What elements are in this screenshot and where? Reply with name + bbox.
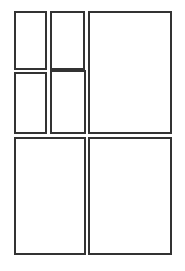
bottom-left-panel[interactable] [14,137,86,255]
top-middle-panel[interactable] [50,11,85,70]
top-left-panel[interactable] [14,11,47,70]
top-right-panel[interactable] [88,11,172,134]
bottom-right-panel[interactable] [88,137,172,255]
middle-center-panel[interactable] [50,70,86,134]
middle-left-panel[interactable] [14,72,47,134]
wireframe-canvas [0,0,185,271]
